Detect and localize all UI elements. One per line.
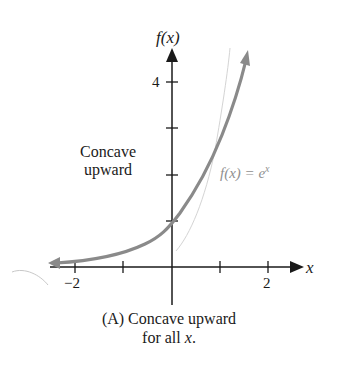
curve-label: f(x) = ex (220, 164, 270, 181)
annotation-line-1: Concave (80, 143, 136, 161)
curve-arrow-right-icon (240, 50, 250, 66)
caption-line-1: (A) Concave upward (0, 309, 338, 328)
faint-guide-line (176, 48, 230, 251)
caption-suffix: . (192, 329, 196, 346)
caption-prefix: for all (142, 329, 185, 346)
curve-label-text: f(x) = e (220, 165, 265, 181)
x-tick-label-neg2: −2 (64, 276, 80, 291)
y-tick-label-4: 4 (152, 75, 160, 90)
x-axis-arrow-icon (290, 261, 304, 273)
x-axis-label: x (306, 259, 314, 276)
caption-variable: x (185, 329, 192, 346)
annotation-line-2: upward (80, 161, 136, 179)
caption-line-2: for all x. (0, 328, 338, 347)
stray-mark (12, 270, 48, 285)
figure-caption: (A) Concave upward for all x. (0, 309, 338, 347)
concavity-annotation: Concave upward (80, 143, 136, 179)
y-axis-arrow-icon (166, 48, 178, 62)
y-axis-label: f(x) (156, 29, 180, 46)
curve-label-exponent: x (265, 163, 269, 174)
x-tick-label-2: 2 (263, 276, 271, 291)
